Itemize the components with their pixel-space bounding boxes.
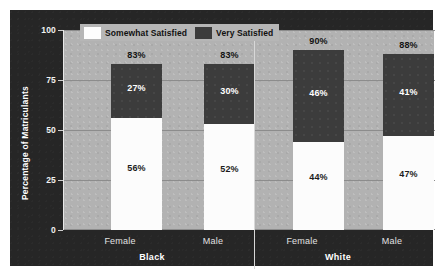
x-axis-label-black-male: Male <box>178 236 248 246</box>
legend-entry-very-satisfied[interactable]: Very Satisfied <box>195 27 273 39</box>
bar-black-female[interactable]: 27% 56% <box>111 64 162 230</box>
bar-total-label-white-male: 88% <box>383 40 434 50</box>
segment-label-somewhat-satisfied: 44% <box>293 172 344 182</box>
segment-somewhat-satisfied[interactable]: 52% <box>204 124 255 230</box>
y-tick-label-50: 50 <box>30 125 56 135</box>
segment-very-satisfied[interactable]: 46% <box>293 50 344 142</box>
bar-total-label-black-female: 83% <box>111 50 162 60</box>
segment-label-somewhat-satisfied: 56% <box>111 163 162 173</box>
bar-white-female[interactable]: 46% 44% <box>293 50 344 230</box>
y-tick-label-25: 25 <box>30 175 56 185</box>
segment-label-somewhat-satisfied: 52% <box>204 164 255 174</box>
x-axis-label-black-female: Female <box>85 236 155 246</box>
legend-label-very-satisfied: Very Satisfied <box>216 28 273 38</box>
chart-screenshot: Percentage of Matriculants 100 75 50 25 … <box>0 0 443 280</box>
chart-legend: Somewhat Satisfied Very Satisfied <box>80 24 279 41</box>
legend-entry-somewhat-satisfied[interactable]: Somewhat Satisfied <box>84 27 187 39</box>
segment-label-very-satisfied: 27% <box>111 83 162 93</box>
y-axis-label: Percentage of Matriculants <box>20 86 30 200</box>
segment-somewhat-satisfied[interactable]: 56% <box>111 118 162 230</box>
segment-somewhat-satisfied[interactable]: 47% <box>383 136 434 230</box>
segment-label-very-satisfied: 41% <box>383 87 434 97</box>
bar-black-male[interactable]: 30% 52% <box>204 64 255 230</box>
x-axis-label-white-female: Female <box>267 236 337 246</box>
legend-label-somewhat-satisfied: Somewhat Satisfied <box>105 28 187 38</box>
x-axis-group-label-black: Black <box>117 252 187 262</box>
plot-area: 27% 56% 83% 30% 52% 83% 46% <box>63 30 434 230</box>
segment-very-satisfied[interactable]: 30% <box>204 64 255 124</box>
group-divider <box>254 30 255 269</box>
x-axis-label-white-male: Male <box>357 236 427 246</box>
segment-label-very-satisfied: 30% <box>204 86 255 96</box>
y-tick-label-75: 75 <box>30 75 56 85</box>
segment-somewhat-satisfied[interactable]: 44% <box>293 142 344 230</box>
segment-very-satisfied[interactable]: 27% <box>111 64 162 118</box>
bar-total-label-white-female: 90% <box>293 36 344 46</box>
legend-swatch-very-satisfied <box>195 27 212 39</box>
y-tick-label-100: 100 <box>30 25 56 35</box>
segment-label-somewhat-satisfied: 47% <box>383 169 434 179</box>
segment-very-satisfied[interactable]: 41% <box>383 54 434 136</box>
segment-label-very-satisfied: 46% <box>293 88 344 98</box>
y-tick-label-0: 0 <box>30 225 56 235</box>
bar-white-male[interactable]: 41% 47% <box>383 54 434 230</box>
x-axis-group-label-white: White <box>303 252 373 262</box>
chart-frame: Percentage of Matriculants 100 75 50 25 … <box>10 10 433 266</box>
legend-swatch-somewhat-satisfied <box>84 27 101 39</box>
y-tick-mark-0 <box>58 230 63 231</box>
bar-total-label-black-male: 83% <box>204 50 255 60</box>
